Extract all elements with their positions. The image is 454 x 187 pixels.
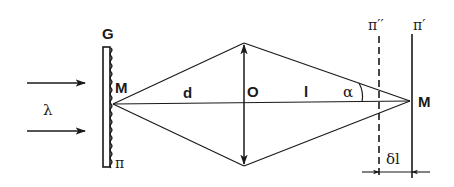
delta-l-label: δl (386, 150, 400, 168)
ray-upper-right (244, 43, 410, 101)
distance-l-label: l (304, 83, 308, 100)
ray-axis (113, 101, 410, 104)
grating (103, 47, 112, 168)
point-m-right-label: M (418, 93, 431, 110)
angle-alpha-arc (359, 83, 363, 102)
point-m-left-label: M (115, 79, 128, 96)
optics-diagram: λ G M π d O l α π′′ π′ M δl (0, 0, 454, 187)
light-rays (113, 43, 410, 166)
plane-pi-label: π (115, 155, 124, 171)
grating-body (103, 47, 110, 167)
plane-pi-prime-label: π′ (413, 17, 425, 33)
incident-light-arrows (27, 83, 85, 131)
grating-label: G (102, 25, 114, 42)
lens-label: O (247, 83, 259, 100)
plane-pi-double-prime-label: π′′ (368, 17, 384, 33)
ray-lower-left (113, 104, 244, 166)
ray-upper-left (113, 43, 244, 104)
angle-alpha-label: α (343, 83, 353, 101)
wavelength-label: λ (43, 101, 53, 119)
distance-d-label: d (183, 84, 192, 101)
